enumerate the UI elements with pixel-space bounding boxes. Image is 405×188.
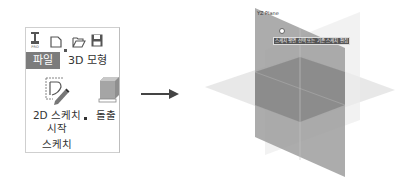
open-folder-icon[interactable] [72,33,86,52]
quick-access-toolbar: PRO [26,28,119,50]
extrude-box-icon [98,77,120,107]
tab-3d-model[interactable]: 3D 모형 [68,52,107,69]
save-icon[interactable] [91,32,103,51]
tab-file[interactable]: 파일 [26,52,60,69]
new-file-icon[interactable] [50,33,62,52]
right-arrow-icon [141,84,179,103]
start-sketch-label-line2: 시작 [26,120,88,135]
start-sketch-dropdown-icon[interactable] [84,117,87,120]
extrude-button[interactable]: 돌출 [92,75,120,127]
sketch-icon [43,75,71,109]
cursor-point-icon [279,28,285,34]
extrude-label: 돌출 [92,107,120,122]
plane-name-label: YZ Plane [257,10,279,16]
svg-text:PRO: PRO [31,45,39,48]
origin-planes-graphic [200,0,405,188]
3d-viewport[interactable] [200,0,405,188]
sketch-group-label: 스케치 [26,136,88,151]
selection-tooltip: 스케치 평면 선택 또는 기존 스케치 편집 [273,37,350,45]
start-2d-sketch-button[interactable]: 2D 스케치 시작 [26,75,88,127]
ribbon-tabs: 파일 3D 모형 [26,52,119,69]
app-logo-icon[interactable]: PRO [29,32,41,52]
ribbon-panel: PRO 파일 3D 모형 2D 스케치 시 [25,27,120,153]
